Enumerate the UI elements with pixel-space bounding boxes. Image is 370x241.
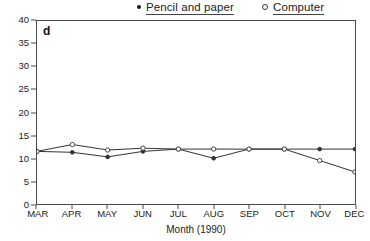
data-point-open-circle xyxy=(247,147,251,151)
y-tick-label: 20 xyxy=(18,108,29,118)
data-point-open-circle xyxy=(282,147,286,151)
figure-panel-d: Pencil and paper Computer 05101520253035… xyxy=(0,0,370,241)
legend-label-computer: Computer xyxy=(273,1,324,15)
y-tick-label: 35 xyxy=(18,38,29,48)
x-tick-label: JUL xyxy=(170,209,187,219)
y-tick-label: 5 xyxy=(24,177,29,187)
data-point-open-circle xyxy=(211,147,215,151)
data-point-open-circle xyxy=(176,147,180,151)
x-tick-label: SEP xyxy=(240,209,259,219)
legend-label-pencil-and-paper: Pencil and paper xyxy=(146,1,234,15)
y-axis: 0510152025303540 xyxy=(0,20,36,205)
x-tick-label: AUG xyxy=(203,209,224,219)
filled-circle-icon xyxy=(137,5,141,9)
x-tick-label: MAY xyxy=(97,209,117,219)
x-tick-label: APR xyxy=(62,209,82,219)
plot-area: d xyxy=(36,20,356,205)
y-tick-label: 40 xyxy=(18,15,29,25)
data-point-open-circle xyxy=(317,158,321,162)
legend-entry-pencil-and-paper: Pencil and paper xyxy=(137,1,234,13)
data-point-filled-circle xyxy=(212,156,216,160)
data-point-filled-circle xyxy=(353,147,355,151)
x-axis-label: Month (1990) xyxy=(36,224,356,235)
chart-legend: Pencil and paper Computer xyxy=(0,0,370,20)
data-point-filled-circle xyxy=(318,147,322,151)
x-tick-label: DEC xyxy=(344,209,364,219)
y-tick-label: 10 xyxy=(18,154,29,164)
x-tick-label: NOV xyxy=(310,209,331,219)
data-point-open-circle xyxy=(37,149,39,153)
y-tick-label: 25 xyxy=(18,85,29,95)
data-point-filled-circle xyxy=(106,155,110,159)
y-tick-label: 30 xyxy=(18,62,29,72)
data-point-open-circle xyxy=(353,170,355,174)
data-point-open-circle xyxy=(141,146,145,150)
x-tick-label: OCT xyxy=(275,209,295,219)
data-point-open-circle xyxy=(105,148,109,152)
x-tick-label: JUN xyxy=(133,209,151,219)
data-point-filled-circle xyxy=(70,150,74,154)
x-tick-label: MAR xyxy=(27,209,48,219)
x-axis: MARAPRMAYJUNJULAUGSEPOCTNOVDEC xyxy=(36,205,356,221)
y-tick-label: 15 xyxy=(18,131,29,141)
open-circle-icon xyxy=(262,4,268,10)
legend-entry-computer: Computer xyxy=(262,1,324,13)
data-point-open-circle xyxy=(70,142,74,146)
series-layer xyxy=(37,21,355,204)
